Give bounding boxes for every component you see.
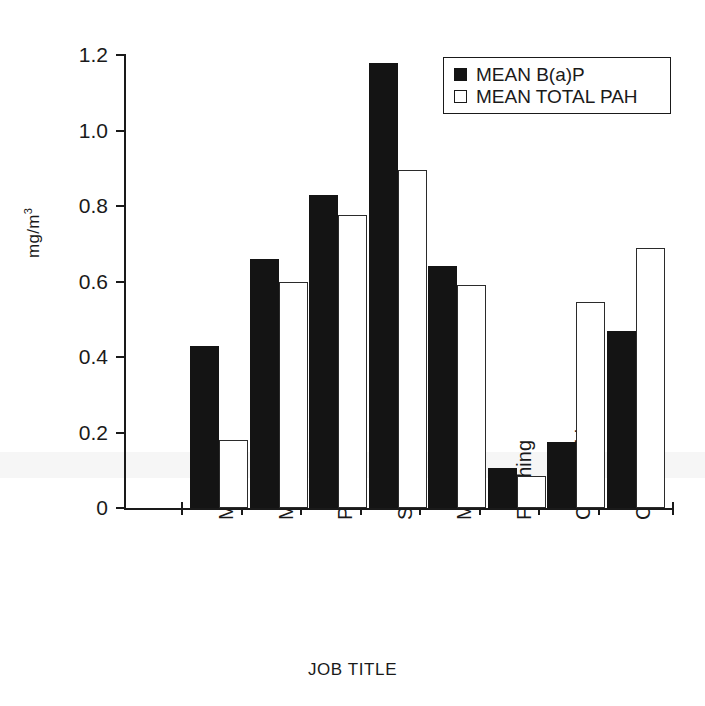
legend-label-mean-bap: MEAN B(a)P: [476, 65, 585, 84]
bar-shake-out-series-2: [398, 170, 427, 508]
bar-meltman-series-1: [428, 266, 457, 508]
y-axis-tick: [116, 356, 126, 358]
y-axis-tick: [116, 54, 126, 56]
legend-swatch-filled-icon: [454, 68, 467, 81]
y-axis-line: [124, 55, 126, 510]
legend-label-mean-total-pah: MEAN TOTAL PAH: [476, 87, 638, 106]
y-axis-tick: [116, 281, 126, 283]
bar-craneman-series-2: [636, 248, 665, 508]
bar-meltman-series-2: [457, 285, 486, 508]
y-axis-title-text: mg/m: [24, 214, 43, 258]
x-axis-end-tick: [672, 502, 674, 515]
y-axis-tick-label: 1.0: [62, 120, 108, 141]
y-axis-tick-label: 0.6: [62, 271, 108, 292]
legend-item-mean-bap: MEAN B(a)P: [454, 63, 662, 85]
bar-molder-series-2: [279, 282, 308, 509]
bar-finishing-series-1: [488, 468, 517, 508]
bar-craneman-series-1: [607, 331, 636, 508]
x-axis-title: JOB TITLE: [0, 660, 705, 680]
bar-mixer-series-2: [219, 440, 248, 508]
legend-swatch-hollow-icon: [454, 90, 467, 103]
y-axis-tick: [116, 130, 126, 132]
bar-pourer-series-2: [338, 215, 367, 508]
legend-item-mean-total-pah: MEAN TOTAL PAH: [454, 85, 662, 107]
y-axis-tick: [116, 205, 126, 207]
bar-finishing-series-2: [517, 476, 546, 508]
y-axis-tick-label: 1.2: [62, 44, 108, 65]
y-axis-title: mg/m3: [22, 208, 44, 258]
legend: MEAN B(a)P MEAN TOTAL PAH: [443, 57, 671, 114]
bar-core-making-series-2: [576, 302, 605, 508]
y-axis-tick: [116, 507, 126, 509]
x-axis-tick: [181, 502, 183, 515]
y-axis-tick-label: 0.4: [62, 346, 108, 367]
bar-core-making-series-1: [547, 442, 576, 508]
y-axis-title-exponent: 3: [22, 208, 34, 214]
bar-pourer-series-1: [309, 195, 338, 508]
y-axis-tick: [116, 432, 126, 434]
bar-chart-figure: mg/m3 00.20.40.60.81.01.2 MixerMolderPou…: [0, 0, 705, 706]
bar-mixer-series-1: [190, 346, 219, 508]
y-axis-tick-label: 0: [62, 497, 108, 518]
y-axis-tick-label: 0.8: [62, 195, 108, 216]
y-axis-tick-label: 0.2: [62, 422, 108, 443]
bar-molder-series-1: [250, 259, 279, 508]
bar-shake-out-series-1: [369, 63, 398, 508]
